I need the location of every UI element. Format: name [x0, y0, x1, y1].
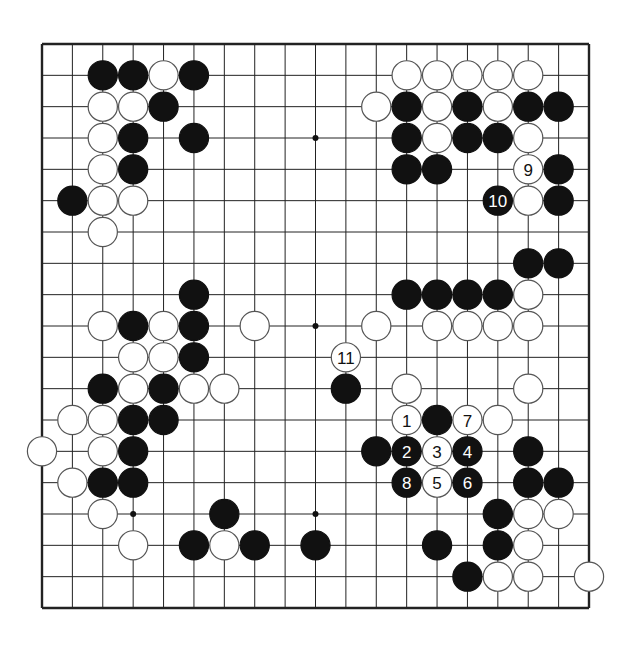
white-stone: [392, 374, 421, 403]
black-stone: 4: [453, 437, 482, 466]
white-stone: [514, 123, 543, 152]
black-stone: [392, 92, 421, 121]
white-stone: 11: [331, 343, 360, 372]
star-point: [130, 511, 136, 517]
black-stone: [453, 562, 482, 591]
white-stone: [514, 311, 543, 340]
white-stone: [240, 311, 269, 340]
black-stone: [422, 531, 451, 560]
white-stone: [483, 92, 512, 121]
black-stone: [179, 531, 208, 560]
white-stone: [88, 499, 117, 528]
white-stone: [88, 155, 117, 184]
white-stone: [483, 562, 512, 591]
black-stone: [119, 468, 148, 497]
black-stone: [392, 155, 421, 184]
black-stone: [483, 531, 512, 560]
star-point: [313, 323, 319, 329]
white-stone: [514, 499, 543, 528]
white-stone: [422, 311, 451, 340]
black-stone: [240, 531, 269, 560]
white-stone: [514, 562, 543, 591]
white-stone: 5: [422, 468, 451, 497]
white-stone: [362, 311, 391, 340]
black-stone: [453, 280, 482, 309]
white-stone: 7: [453, 405, 482, 434]
white-stone: [453, 61, 482, 90]
black-stone: [301, 531, 330, 560]
white-stone: [453, 311, 482, 340]
white-stone: [149, 311, 178, 340]
move-number-label: 4: [463, 443, 472, 462]
black-stone: [453, 123, 482, 152]
white-stone: [422, 92, 451, 121]
white-stone: [483, 61, 512, 90]
move-number-label: 2: [402, 443, 411, 462]
black-stone: [58, 186, 87, 215]
white-stone: 9: [514, 155, 543, 184]
white-stone: [119, 343, 148, 372]
white-stone: [514, 531, 543, 560]
white-stone: [149, 343, 178, 372]
black-stone: [88, 468, 117, 497]
black-stone: 8: [392, 468, 421, 497]
white-stone: [27, 437, 56, 466]
move-number-label: 11: [337, 349, 355, 368]
black-stone: [453, 92, 482, 121]
go-board: 9101117234856: [0, 0, 630, 652]
white-stone: [514, 186, 543, 215]
black-stone: [179, 311, 208, 340]
white-stone: [88, 123, 117, 152]
black-stone: [179, 343, 208, 372]
black-stone: [119, 405, 148, 434]
move-number-label: 5: [432, 474, 441, 493]
white-stone: [88, 437, 117, 466]
black-stone: [179, 61, 208, 90]
black-stone: [88, 61, 117, 90]
white-stone: [88, 186, 117, 215]
white-stone: [119, 186, 148, 215]
black-stone: [179, 280, 208, 309]
black-stone: [483, 280, 512, 309]
white-stone: [514, 374, 543, 403]
black-stone: [514, 437, 543, 466]
black-stone: [544, 186, 573, 215]
white-stone: [88, 405, 117, 434]
white-stone: [210, 531, 239, 560]
white-stone: [58, 468, 87, 497]
black-stone: [514, 92, 543, 121]
white-stone: 1: [392, 405, 421, 434]
black-stone: [544, 468, 573, 497]
white-stone: [58, 405, 87, 434]
move-number-label: 1: [402, 412, 411, 431]
white-stone: [483, 405, 512, 434]
black-stone: [149, 92, 178, 121]
black-stone: [119, 123, 148, 152]
black-stone: 6: [453, 468, 482, 497]
black-stone: [483, 499, 512, 528]
white-stone: [392, 61, 421, 90]
black-stone: [514, 249, 543, 278]
black-stone: [179, 123, 208, 152]
white-stone: [210, 374, 239, 403]
black-stone: [331, 374, 360, 403]
black-stone: 2: [392, 437, 421, 466]
black-stone: 10: [483, 186, 512, 215]
white-stone: [574, 562, 603, 591]
black-stone: [544, 249, 573, 278]
white-stone: [422, 61, 451, 90]
black-stone: [119, 155, 148, 184]
white-stone: [119, 531, 148, 560]
white-stone: [88, 217, 117, 246]
black-stone: [149, 405, 178, 434]
black-stone: [483, 123, 512, 152]
white-stone: [119, 374, 148, 403]
black-stone: [362, 437, 391, 466]
black-stone: [514, 468, 543, 497]
black-stone: [392, 280, 421, 309]
move-number-label: 3: [432, 443, 441, 462]
black-stone: [210, 499, 239, 528]
black-stone: [88, 374, 117, 403]
black-stone: [422, 280, 451, 309]
black-stone: [544, 155, 573, 184]
